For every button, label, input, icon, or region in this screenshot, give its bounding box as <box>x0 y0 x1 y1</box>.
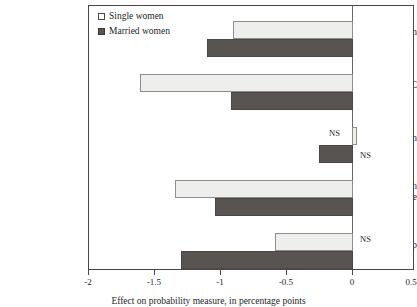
bar-single-db-plan <box>233 21 353 39</box>
ns-annotation-single-home-ownership: NS <box>360 234 371 244</box>
bar-single-dc-plan <box>352 127 357 145</box>
x-tick-mark-1 <box>154 270 155 275</box>
legend-swatch-single-icon <box>98 13 105 20</box>
x-axis-title: Effect on probability measure, in percen… <box>0 296 417 307</box>
legend-label-single-women: Single women <box>109 9 164 24</box>
x-tick-mark-3 <box>286 270 287 275</box>
legend-item-married-women: Married women <box>98 24 170 39</box>
x-tick-label-2: -1 <box>216 277 224 287</box>
bar-married-both-db-and-dc <box>231 92 353 110</box>
bar-married-dc-plan <box>319 145 353 163</box>
bar-single-home-ownership <box>275 233 353 251</box>
bar-single-retiree-health-insurance <box>175 180 353 198</box>
bar-married-retiree-health-insurance <box>215 198 353 216</box>
ns-annotation-single-dc-plan: NS <box>329 128 340 138</box>
plot-area: NS NS NS Single women Married women <box>88 5 414 270</box>
bar-married-db-plan <box>207 39 353 57</box>
bar-single-both-db-and-dc <box>140 74 353 92</box>
ns-annotation-married-dc-plan: NS <box>360 150 371 160</box>
x-tick-label-3: -0.5 <box>279 277 293 287</box>
x-tick-label-4: 0 <box>350 277 355 287</box>
x-tick-label-5: 0.5 <box>405 277 416 287</box>
bar-chart-figure: DB plan Both DB and DC DC plan Retiree h… <box>0 0 417 307</box>
x-tick-mark-4 <box>352 270 353 275</box>
x-tick-label-0: -2 <box>84 277 92 287</box>
legend-item-single-women: Single women <box>98 9 170 24</box>
legend-label-married-women: Married women <box>109 24 170 39</box>
x-tick-mark-2 <box>220 270 221 275</box>
bar-married-home-ownership <box>181 251 353 269</box>
legend-swatch-married-icon <box>98 28 105 35</box>
legend: Single women Married women <box>98 9 170 39</box>
x-tick-label-1: -1.5 <box>147 277 161 287</box>
x-tick-mark-0 <box>88 270 89 275</box>
